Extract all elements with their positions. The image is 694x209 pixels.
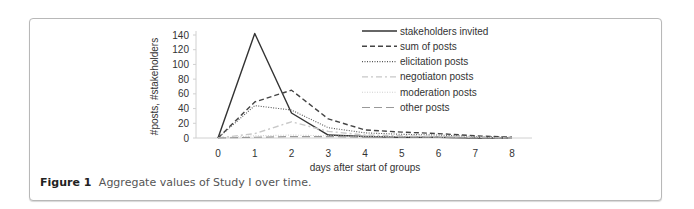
series-line-elicitation-posts bbox=[218, 106, 512, 138]
y-tick-label: 40 bbox=[178, 103, 190, 114]
legend-label: stakeholders invited bbox=[400, 26, 488, 37]
x-tick-label: 4 bbox=[362, 148, 368, 159]
y-tick-label: 140 bbox=[172, 30, 189, 41]
x-tick-label: 8 bbox=[509, 148, 515, 159]
figure-caption: Figure 1 Aggregate values of Study I ove… bbox=[40, 176, 311, 189]
x-tick-label: 6 bbox=[436, 148, 442, 159]
y-tick-label: 120 bbox=[172, 44, 189, 55]
x-tick-label: 5 bbox=[399, 148, 405, 159]
y-tick-label: 80 bbox=[178, 74, 190, 85]
figure-caption-text: Aggregate values of Study I over time. bbox=[99, 176, 312, 189]
x-tick-label: 2 bbox=[289, 148, 295, 159]
legend-label: other posts bbox=[400, 102, 449, 113]
y-tick-label: 60 bbox=[178, 88, 190, 99]
y-axis-title: #posts, #stakeholders bbox=[149, 38, 160, 135]
legend-label: sum of posts bbox=[400, 41, 457, 52]
y-tick-label: 0 bbox=[183, 133, 189, 144]
legend-label: negotiaton posts bbox=[400, 71, 473, 82]
x-tick-label: 3 bbox=[325, 148, 331, 159]
series-line-negotiaton-posts bbox=[218, 122, 512, 138]
y-tick-label: 100 bbox=[172, 59, 189, 70]
figure-label: Figure 1 bbox=[40, 176, 91, 189]
x-tick-label: 7 bbox=[472, 148, 478, 159]
y-tick-label: 20 bbox=[178, 118, 190, 129]
x-tick-label: 0 bbox=[215, 148, 221, 159]
legend-label: moderation posts bbox=[400, 87, 477, 98]
x-axis-title: days after start of groups bbox=[310, 162, 421, 173]
x-tick-label: 1 bbox=[252, 148, 258, 159]
legend-label: elicitation posts bbox=[400, 56, 468, 67]
